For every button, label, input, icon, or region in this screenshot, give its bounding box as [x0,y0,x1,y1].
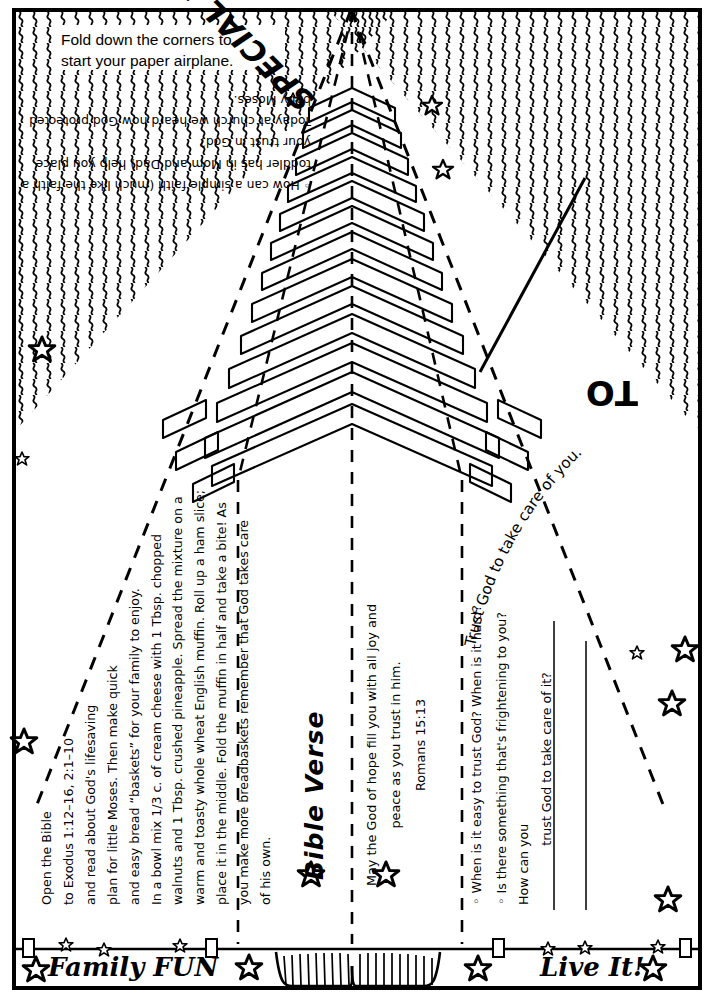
discussion-question-1: ◦ When is it easy to trust God? When is … [466,585,489,905]
discussion-questions-block: ◦ When is it easy to trust God? When is … [466,585,559,905]
recipe-line: and read about God's lifesaving [80,475,102,905]
recipe-text-block: Open the Bible to Exodus 1:12–16, 2:1–10… [36,475,277,905]
worksheet-page: Fold down the corners to start your pape… [0,0,716,1004]
recipe-line: place it in the middle. Fold the muffin … [211,475,233,905]
recipe-line: plan for little Moses. Then make quick [102,475,124,905]
bible-verse-line-2: peace as you trust in him. [388,661,403,828]
banner-tab-1 [22,938,35,958]
recipe-line: to Exodus 1:12–16, 2:1–10 [58,475,80,905]
bible-verse-title: Bible Verse [300,711,329,880]
recipe-line: In a bowl mix 1/3 c. of cream cheese wit… [146,475,168,905]
live-it-label: Live It! [540,952,644,982]
recipe-line: and easy bread “baskets” for your family… [124,475,146,905]
banner-tab-3 [492,938,505,958]
family-fun-label: Family FUN [48,952,218,982]
intro-question: ◦ How can a simple faith (much like the … [11,132,311,196]
recipe-line: walnuts and 1 Tbsp. crushed pineapple. S… [167,475,189,905]
banner-tab-4 [679,938,692,958]
bible-verse-body: May the God of hope fill you with all jo… [360,595,433,895]
discussion-question-2-line-2: trust God to take care of it? [536,585,559,905]
bible-verse-line-1: May the God of hope fill you with all jo… [364,604,379,886]
bible-verse-reference: Romans 15:13 [409,595,433,895]
intro-paragraph: Today at church we heard how God protect… [11,89,311,132]
recipe-line: of his own. [255,475,277,905]
recipe-line: Open the Bible [36,475,58,905]
discussion-question-2-line-1: ◦ Is there something that's frightening … [494,612,532,905]
recipe-line: you make more breadbaskets remember that… [233,475,255,905]
intro-text-block: ◦ How can a simple faith (much like the … [11,89,311,196]
discussion-question-2: ◦ Is there something that's frightening … [491,585,559,905]
recipe-line: warm and toasty whole wheat English muff… [189,475,211,905]
